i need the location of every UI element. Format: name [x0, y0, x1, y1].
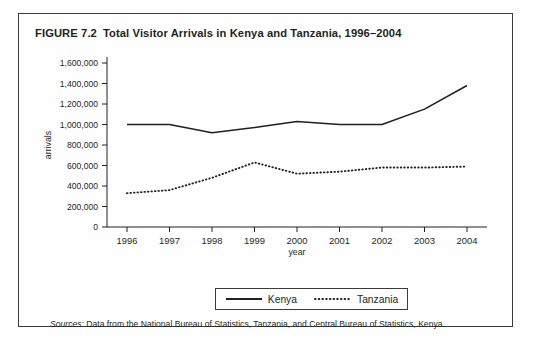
y-axis-tick-label: 1,600,000 [60, 58, 98, 68]
y-axis-title: arrivals [43, 130, 53, 159]
x-axis-tick-label: 2003 [414, 235, 435, 246]
legend-swatch-solid-icon [225, 294, 263, 304]
y-axis-tick-label: 600,000 [67, 161, 98, 171]
legend-item-tanzania: Tanzania [314, 294, 398, 305]
x-axis-tick-label: 1997 [159, 235, 180, 246]
line-chart-svg: 0200,000400,000600,000800,0001,000,0001,… [19, 14, 514, 328]
chart-legend: Kenya Tanzania [215, 288, 408, 310]
y-axis-tick-label: 1,000,000 [60, 120, 98, 130]
source-note: Sources: Data from the National Bureau o… [50, 319, 445, 329]
legend-item-kenya: Kenya [225, 294, 297, 305]
x-axis-tick-label: 2004 [457, 235, 478, 246]
y-axis-tick-label: 0 [93, 222, 98, 232]
x-axis-tick-label: 2001 [329, 235, 350, 246]
legend-label-tanzania: Tanzania [357, 294, 398, 305]
y-axis-tick-label: 400,000 [67, 181, 98, 191]
x-axis-title: year [288, 247, 305, 257]
y-axis-tick-label: 1,200,000 [60, 99, 98, 109]
x-axis-tick-label: 2002 [372, 235, 393, 246]
legend-swatch-dotted-icon [314, 294, 352, 304]
series-line-tanzania [127, 162, 467, 193]
figure-container: FIGURE 7.2Total Visitor Arrivals in Keny… [18, 13, 513, 327]
source-note-text: Data from the National Bureau of Statist… [84, 319, 445, 329]
y-axis-tick-label: 200,000 [67, 202, 98, 212]
y-axis-tick-label: 1,400,000 [60, 79, 98, 89]
x-axis-tick-label: 2000 [287, 235, 308, 246]
x-axis-tick-label: 1996 [117, 235, 138, 246]
legend-label-kenya: Kenya [268, 294, 297, 305]
series-line-kenya [127, 86, 467, 133]
x-axis-tick-label: 1999 [244, 235, 265, 246]
x-axis-tick-label: 1998 [202, 235, 223, 246]
source-note-lead: Sources: [50, 319, 84, 329]
chart-plot-area: 0200,000400,000600,000800,0001,000,0001,… [19, 14, 514, 328]
y-axis-tick-label: 800,000 [67, 140, 98, 150]
